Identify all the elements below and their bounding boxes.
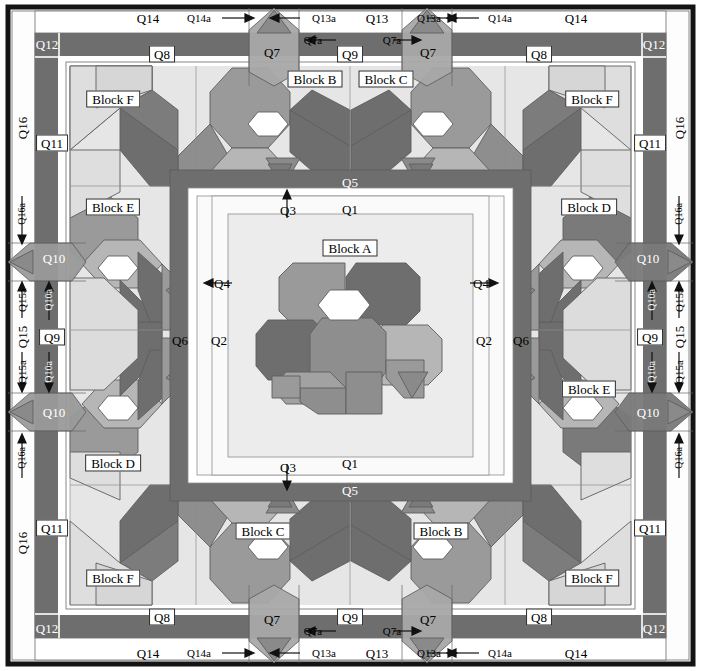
label-q15a-left-top: Q15a <box>17 288 28 312</box>
label-q7a-bottom-left: Q7a <box>304 626 322 637</box>
label-q9-left: Q9 <box>39 329 65 346</box>
label-q9-bottom: Q9 <box>337 609 363 626</box>
label-q14-top-right: Q14 <box>565 12 587 25</box>
block-label-d-left-bottom: Block D <box>85 455 141 472</box>
label-q10-right-top: Q10 <box>637 252 659 265</box>
label-q14a-bottom-left: Q14a <box>187 648 211 659</box>
label-q7-bottom-left: Q7 <box>264 613 280 626</box>
label-q7-top-right: Q7 <box>420 46 436 59</box>
label-q12-top-left: Q12 <box>36 38 58 51</box>
label-q14-bottom-right: Q14 <box>565 647 587 660</box>
label-q7-top-left: Q7 <box>264 46 280 59</box>
label-q15a-right-bottom: Q15a <box>674 360 685 384</box>
block-label-a: Block A <box>323 240 378 257</box>
label-q14a-top-left: Q14a <box>187 13 211 24</box>
block-label-b-bottom: Block B <box>414 523 469 540</box>
label-q2-right: Q2 <box>476 334 492 347</box>
label-q16a-left-top: Q16a <box>17 203 27 225</box>
label-q13a-top-right: Q13a <box>417 13 441 24</box>
label-q16a-right-top: Q16a <box>674 203 684 225</box>
label-q10-left-top: Q10 <box>43 252 65 265</box>
label-q7a-bottom-right: Q7a <box>383 626 401 637</box>
label-q12-bottom-left: Q12 <box>36 622 58 635</box>
label-q8-bottom-right: Q8 <box>526 609 552 626</box>
block-label-f-bottom-left: Block F <box>86 570 140 587</box>
label-q16-left-top: Q16 <box>16 117 29 139</box>
label-q13a-bottom-right: Q13a <box>417 648 441 659</box>
label-q1-top: Q1 <box>342 203 358 216</box>
label-q14a-top-right: Q14a <box>488 13 512 24</box>
block-label-e-left-top: Block E <box>86 199 140 216</box>
block-label-f-top-left: Block F <box>86 91 140 108</box>
label-q12-bottom-right: Q12 <box>643 622 665 635</box>
label-q6-left: Q6 <box>172 334 188 347</box>
block-label-b-top: Block B <box>288 71 343 88</box>
label-q4-left: Q4 <box>214 277 230 290</box>
label-q10a-left-bottom: Q10a <box>44 361 54 383</box>
label-q13a-top-left: Q13a <box>312 13 336 24</box>
label-q10a-left-top: Q10a <box>44 289 54 311</box>
label-q1-bottom: Q1 <box>342 457 358 470</box>
label-q16a-right-bottom: Q16a <box>674 447 684 469</box>
label-q5-bottom: Q5 <box>342 484 358 497</box>
label-q3-bottom: Q3 <box>280 461 296 474</box>
label-q14-top-left: Q14 <box>137 12 159 25</box>
label-q13-bottom: Q13 <box>366 647 388 660</box>
label-q10a-right-top: Q10a <box>647 289 657 311</box>
label-q10a-right-bottom: Q10a <box>647 361 657 383</box>
block-label-c-bottom: Block C <box>236 523 291 540</box>
label-q16-left-bottom: Q16 <box>16 532 29 554</box>
label-q10-right-bottom: Q10 <box>637 406 659 419</box>
label-q7-bottom-right: Q7 <box>420 613 436 626</box>
label-q8-top-right: Q8 <box>526 46 552 63</box>
label-q15a-left-bottom: Q15a <box>17 360 28 384</box>
label-q13-top: Q13 <box>366 12 388 25</box>
label-q3-top: Q3 <box>280 204 296 217</box>
label-q11-left-top: Q11 <box>36 135 68 152</box>
label-q9-right: Q9 <box>637 329 663 346</box>
label-q4-right: Q4 <box>473 277 489 290</box>
block-label-f-top-right: Block F <box>565 91 619 108</box>
label-q9-top: Q9 <box>337 46 363 63</box>
label-q7a-top-left: Q7a <box>304 35 322 46</box>
label-q11-right-top: Q11 <box>634 135 666 152</box>
block-label-d-right-top: Block D <box>561 199 617 216</box>
block-label-f-bottom-right: Block F <box>565 570 619 587</box>
label-q11-right-bottom: Q11 <box>634 520 666 537</box>
label-q15a-right-top: Q15a <box>674 288 685 312</box>
block-label-c-top: Block C <box>359 71 414 88</box>
block-label-e-right-bottom: Block E <box>562 381 616 398</box>
label-q16a-left-bottom: Q16a <box>17 447 27 469</box>
label-q15-left: Q15 <box>16 326 29 348</box>
label-q16-right-top: Q16 <box>673 117 686 139</box>
label-q12-top-right: Q12 <box>643 38 665 51</box>
label-q7a-top-right: Q7a <box>383 35 401 46</box>
quilt-diagram-stage: Q14 Q14a Q13a Q13 Q13a Q14a Q14 Q12 Q12 … <box>0 0 701 671</box>
label-q5-top: Q5 <box>342 176 358 189</box>
label-q8-top-left: Q8 <box>149 46 175 63</box>
label-q14a-bottom-right: Q14a <box>488 648 512 659</box>
label-q13a-bottom-left: Q13a <box>312 648 336 659</box>
label-q11-left-bottom: Q11 <box>36 520 68 537</box>
label-q10-left-bottom: Q10 <box>43 406 65 419</box>
label-q8-bottom-left: Q8 <box>149 609 175 626</box>
label-q6-right: Q6 <box>513 334 529 347</box>
label-q15-right: Q15 <box>673 326 686 348</box>
label-q2-left: Q2 <box>211 334 227 347</box>
label-q14-bottom-left: Q14 <box>137 647 159 660</box>
